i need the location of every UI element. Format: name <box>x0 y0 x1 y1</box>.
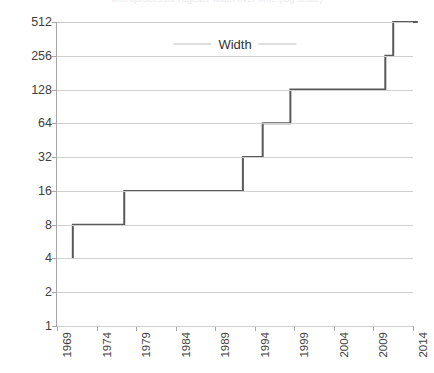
gridline-y-128 <box>57 90 413 91</box>
x-tickmark-1979 <box>136 327 137 331</box>
y-axis-tick-labels: 1248163264128256512 <box>0 0 52 373</box>
legend-label-width: Width <box>218 37 251 52</box>
gridline-y-64 <box>57 123 413 124</box>
x-axis-tick-labels: 1969197419791984198919941999200420092014 <box>0 328 434 373</box>
chart-container: Microprocessor register width over time … <box>0 0 434 373</box>
gridline-y-512 <box>57 22 413 23</box>
y-tickmark-16 <box>52 191 56 192</box>
x-tick-label-1999: 1999 <box>298 332 310 358</box>
y-tickmark-512 <box>52 22 56 23</box>
y-tickmark-128 <box>52 90 56 91</box>
gridline-y-256 <box>57 56 413 57</box>
cut-off-header-text: Microprocessor register width over time … <box>0 0 434 4</box>
x-tick-label-2014: 2014 <box>417 332 429 358</box>
gridline-y-1 <box>57 326 413 327</box>
legend-line-swatch-right <box>259 43 297 45</box>
gridline-y-2 <box>57 292 413 293</box>
y-tick-label-8: 8 <box>4 218 52 232</box>
y-tickmark-256 <box>52 56 56 57</box>
y-tick-label-2: 2 <box>4 285 52 299</box>
x-tick-label-1984: 1984 <box>180 332 192 358</box>
x-tick-label-2004: 2004 <box>338 332 350 358</box>
x-tickmark-2004 <box>334 327 335 331</box>
x-tickmark-2014 <box>413 327 414 331</box>
x-tickmark-1994 <box>255 327 256 331</box>
x-tick-label-1994: 1994 <box>259 332 271 358</box>
y-tickmark-32 <box>52 157 56 158</box>
x-tickmark-2009 <box>373 327 374 331</box>
y-tickmark-64 <box>52 123 56 124</box>
y-tick-label-256: 256 <box>4 49 52 63</box>
y-tickmark-4 <box>52 258 56 259</box>
gridline-y-4 <box>57 258 413 259</box>
x-tickmark-1989 <box>215 327 216 331</box>
plot-area: Width <box>57 22 413 326</box>
gridline-y-16 <box>57 191 413 192</box>
y-tickmark-2 <box>52 292 56 293</box>
y-tick-label-512: 512 <box>4 15 52 29</box>
y-tick-label-16: 16 <box>4 184 52 198</box>
x-tickmark-1974 <box>97 327 98 331</box>
y-tickmark-1 <box>52 326 56 327</box>
x-tickmark-1969 <box>57 327 58 331</box>
x-tick-label-1974: 1974 <box>101 332 113 358</box>
y-tick-label-4: 4 <box>4 251 52 265</box>
y-tick-label-64: 64 <box>4 116 52 130</box>
y-tick-label-32: 32 <box>4 150 52 164</box>
gridline-y-32 <box>57 157 413 158</box>
series-line-width <box>73 22 418 258</box>
x-tick-label-1979: 1979 <box>140 332 152 358</box>
x-tick-label-1989: 1989 <box>219 332 231 358</box>
chart-legend: Width <box>57 44 413 45</box>
gridline-y-8 <box>57 225 413 226</box>
x-tickmark-1999 <box>294 327 295 331</box>
series-width-line <box>57 22 413 326</box>
y-tickmark-8 <box>52 225 56 226</box>
legend-line-swatch-left <box>173 43 211 45</box>
x-tickmark-1984 <box>176 327 177 331</box>
x-tick-label-2009: 2009 <box>377 332 389 358</box>
x-tick-label-1969: 1969 <box>61 332 73 358</box>
y-tick-label-128: 128 <box>4 83 52 97</box>
